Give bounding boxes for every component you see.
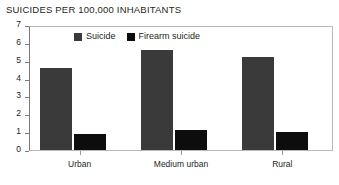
x-axis-category: Medium urban: [130, 151, 231, 181]
bar: [74, 134, 106, 150]
legend-swatch-icon: [127, 33, 135, 41]
x-axis-tick-mark: [282, 151, 283, 155]
x-axis-tick-mark: [80, 151, 81, 155]
y-axis: 76543210: [0, 26, 29, 151]
legend-label: Suicide: [86, 32, 116, 41]
legend-label: Firearm suicide: [139, 32, 201, 41]
x-axis-category: Urban: [29, 151, 130, 181]
chart-legend: SuicideFirearm suicide: [74, 32, 200, 41]
y-axis-tick-label: 2: [16, 109, 21, 118]
bar: [175, 130, 207, 150]
x-axis: UrbanMedium urbanRural: [29, 151, 333, 181]
legend-swatch-icon: [74, 33, 82, 41]
bar: [276, 132, 308, 150]
x-axis-tick-label: Urban: [29, 159, 130, 169]
y-axis-tick-label: 4: [16, 74, 21, 83]
x-axis-tick-mark: [181, 151, 182, 155]
legend-item: Firearm suicide: [127, 32, 201, 41]
x-axis-tick-label: Medium urban: [130, 159, 231, 169]
suicides-bar-chart: SUICIDES PER 100,000 INHABITANTS 7654321…: [0, 0, 339, 185]
x-axis-tick-label: Rural: [232, 159, 333, 169]
y-axis-tick-label: 7: [16, 20, 21, 29]
chart-title: SUICIDES PER 100,000 INHABITANTS: [6, 4, 181, 15]
y-axis-tick-label: 5: [16, 56, 21, 65]
bar: [242, 57, 274, 150]
y-axis-tick-label: 0: [16, 145, 21, 154]
bar: [40, 68, 72, 150]
y-axis-tick-label: 3: [16, 91, 21, 100]
legend-item: Suicide: [74, 32, 116, 41]
x-axis-category: Rural: [232, 151, 333, 181]
y-axis-tick-label: 6: [16, 38, 21, 47]
y-axis-tick-label: 1: [16, 127, 21, 136]
bar: [141, 50, 173, 150]
plot-area: [29, 26, 333, 151]
